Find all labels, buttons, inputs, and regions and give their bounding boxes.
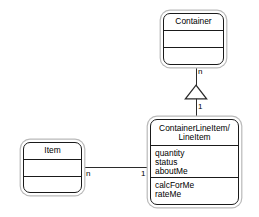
association-edge-item-to-container-line-item: [82, 167, 150, 168]
class-name-container: Container: [175, 16, 211, 26]
operations-compartment-container: [164, 48, 223, 64]
operations-compartment-item: [24, 177, 81, 192]
operations-compartment-container-line-item: calcForMe rateMe: [151, 178, 238, 206]
attribute-about-me: aboutMe: [155, 167, 238, 176]
class-name-container-line-item-line2: LineItem: [151, 133, 238, 143]
uml-class-diagram-canvas: Container Item ContainerLineItem/ LineIt…: [0, 0, 259, 217]
multiplicity-association-lineitem-end: 1: [141, 170, 145, 178]
attributes-compartment-container-line-item: quantity status aboutMe: [151, 146, 238, 178]
class-name-compartment-container: Container: [164, 14, 223, 31]
class-box-container-line-item[interactable]: ContainerLineItem/ LineItem quantity sta…: [150, 119, 239, 205]
class-box-item[interactable]: Item: [23, 142, 82, 193]
attributes-compartment-container: [164, 31, 223, 48]
operation-rate-me: rateMe: [155, 190, 238, 199]
generalization-arrowhead-icon: [184, 84, 208, 100]
generalization-edge-upper-segment: [196, 65, 197, 86]
class-name-compartment-item: Item: [24, 143, 81, 160]
class-name-compartment-container-line-item: ContainerLineItem/ LineItem: [151, 120, 238, 146]
multiplicity-generalization-lineitem-end: 1: [198, 103, 202, 111]
attributes-compartment-item: [24, 160, 81, 177]
generalization-edge-lower-segment: [196, 98, 197, 119]
class-name-item: Item: [44, 145, 60, 155]
class-box-container[interactable]: Container: [163, 13, 224, 65]
multiplicity-generalization-container-end: n: [198, 68, 202, 76]
multiplicity-association-item-end: n: [86, 170, 90, 178]
